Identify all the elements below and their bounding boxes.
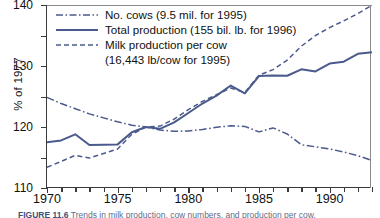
- caption-text: Trends in milk production, cow numbers, …: [69, 210, 316, 218]
- y-tick-label-140: 140: [13, 0, 33, 12]
- x-tick-label-1985: 1985: [245, 192, 273, 206]
- legend-key-dashed-icon: [56, 38, 98, 51]
- series-line-0: [47, 97, 372, 160]
- y-tick-label-110: 110: [14, 181, 33, 195]
- legend-item-milk-per-cow: Milk production per cow: [56, 38, 356, 53]
- legend-item-no-cows: No. cows (9.5 mil. for 1995): [56, 8, 356, 23]
- legend-item-total-production: Total production (155 bil. lb. for 1996): [56, 23, 356, 38]
- legend-label-no-cows: No. cows (9.5 mil. for 1995): [105, 8, 247, 21]
- x-tick-label-1980: 1980: [174, 192, 202, 206]
- figure-container: % of 1977 8090100110120130140 1970197519…: [0, 0, 380, 218]
- legend-key-dash-dot-icon: [56, 8, 98, 21]
- legend-label-milk-per-cow-line2: (16,443 lb/cow for 1995): [105, 53, 356, 67]
- chart-legend: No. cows (9.5 mil. for 1995) Total produ…: [56, 8, 356, 67]
- y-axis-title: % of 1977: [12, 44, 24, 124]
- legend-label-milk-per-cow: Milk production per cow: [105, 38, 227, 51]
- x-tick-label-1990: 1990: [316, 192, 344, 206]
- y-tick-label-120: 120: [13, 120, 33, 134]
- figure-number: FIGURE 11.6: [18, 210, 69, 218]
- legend-label-total-production: Total production (155 bil. lb. for 1996): [105, 23, 296, 36]
- x-tick-label-1975: 1975: [104, 192, 132, 206]
- figure-caption: FIGURE 11.6 Trends in milk production, c…: [18, 210, 374, 218]
- x-tick-label-1970: 1970: [33, 192, 61, 206]
- legend-key-solid-icon: [56, 23, 98, 36]
- y-tick-label-130: 130: [13, 59, 33, 73]
- x-tick-1993: [372, 187, 373, 192]
